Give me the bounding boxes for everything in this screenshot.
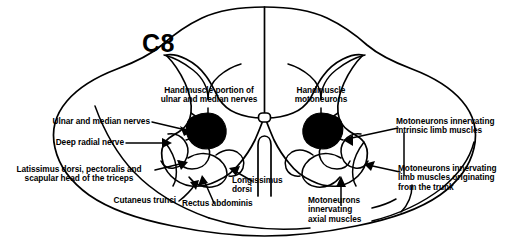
label-handmuscle-motoneurons: Handmuscle motoneurons: [280, 86, 362, 105]
label-latissimus-pectoralis: Latissimus dorsi, pectoralis and scapula…: [5, 165, 153, 184]
handmuscle-pool-left-filled: [186, 113, 226, 149]
label-rectus-abdominis: Rectus abdominis: [182, 199, 274, 208]
spinal-cord-diagram: C8 Handmuscle portion of ulnar and media…: [0, 0, 529, 240]
central-canal: [259, 113, 271, 122]
label-motoneurons-intrinsic-limb: Motoneurons innervating intrinsic limb m…: [396, 117, 528, 136]
label-motoneurons-axial: Motoneurons innervating axial muscles: [308, 196, 386, 224]
label-cutaneus-trunci: Cutaneus trunci: [92, 196, 176, 205]
label-longissimus-dorsi: Longissimus dorsi: [232, 176, 294, 195]
label-motoneurons-limb-trunk: Motoneurons innervating limb muscles ori…: [398, 164, 529, 192]
label-handmuscle-portion: Handmuscle portion of ulnar and median n…: [140, 86, 278, 105]
segment-label: C8: [142, 29, 175, 58]
handmuscle-pool-right-filled: [303, 113, 343, 149]
label-deep-radial-nerve: Deep radial nerve: [40, 138, 124, 147]
label-ulnar-median-nerves: Ulnar and median nerves: [28, 117, 150, 126]
